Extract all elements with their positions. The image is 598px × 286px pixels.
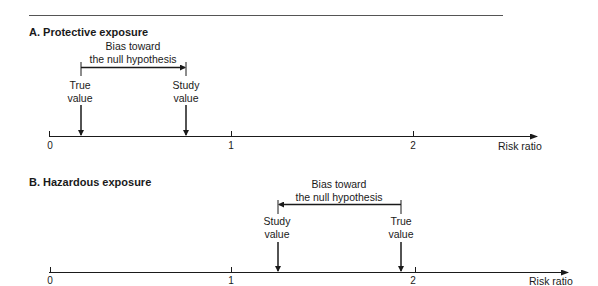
panel-b-axis [49, 267, 568, 273]
panel-b-bias-arrow [278, 200, 401, 214]
panel-a-bias-arrow [81, 62, 186, 76]
panel-a-axis [49, 131, 537, 137]
diagram-lines [0, 0, 598, 286]
